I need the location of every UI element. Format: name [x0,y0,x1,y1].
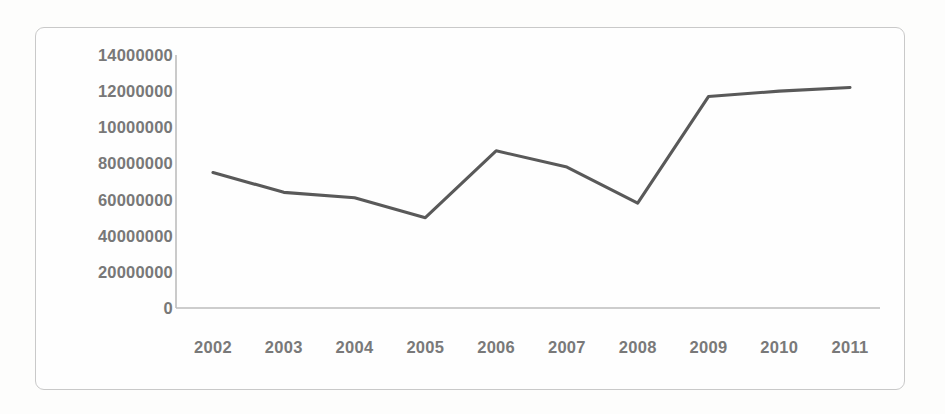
data-series-line [213,88,850,218]
line-chart: 1400000012000000100000008000000060000000… [0,0,945,414]
chart-plot-svg [0,0,945,414]
